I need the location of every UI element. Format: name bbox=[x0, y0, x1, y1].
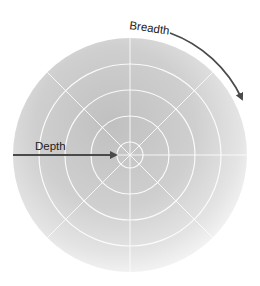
depth-label: Depth bbox=[35, 140, 66, 152]
depth-breadth-diagram: Depth Breadth bbox=[0, 0, 260, 286]
breadth-label: Breadth bbox=[129, 19, 171, 36]
